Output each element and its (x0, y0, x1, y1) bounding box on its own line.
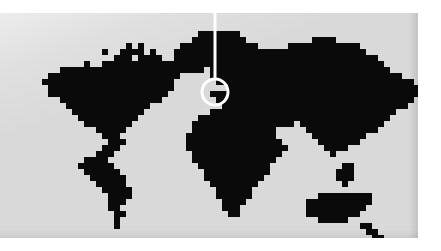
map-panel (0, 13, 418, 238)
marker-layer (0, 13, 418, 238)
location-highlight-circle[interactable] (202, 79, 228, 105)
world-map-graphic (0, 0, 441, 251)
